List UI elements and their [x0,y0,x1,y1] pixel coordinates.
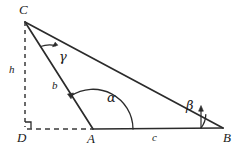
vertex-label-a: A [87,132,95,145]
angle-label-alpha: α [107,91,116,104]
segment-ab-line [93,128,223,129]
vertex-label-b: B [223,131,231,144]
angle-label-beta: β [186,99,194,112]
angle-beta-arrowhead [199,106,204,112]
segment-label-c: c [152,132,157,143]
triangle-diagram-svg [0,0,241,149]
segment-label-b: b [52,80,58,91]
vertex-label-c: C [19,3,28,16]
angle-label-gamma: γ [59,50,67,63]
geometry-figure: C D A B b c h γ α β [0,0,241,149]
segment-ca-line [25,22,93,129]
vertex-label-d: D [17,131,26,144]
segment-label-h: h [9,64,15,75]
right-angle-marker-d [25,122,31,129]
